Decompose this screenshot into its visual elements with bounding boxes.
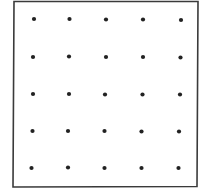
grid-dot-r4-c5 — [177, 129, 181, 133]
grid-dot-r4-c2 — [66, 129, 70, 133]
grid-dot-r1-c4 — [141, 17, 145, 21]
grid-dot-r3-c4 — [140, 92, 144, 96]
grid-dot-r1-c3 — [104, 17, 108, 21]
grid-dot-r1-c1 — [32, 17, 36, 21]
grid-dot-r5-c4 — [139, 166, 143, 170]
grid-dot-r1-c2 — [67, 17, 71, 21]
grid-dot-r5-c2 — [66, 165, 70, 169]
grid-dot-r2-c4 — [141, 55, 145, 59]
grid-dot-r2-c2 — [67, 54, 71, 58]
grid-dot-r4-c3 — [102, 129, 106, 133]
grid-dot-r4-c1 — [30, 129, 34, 133]
grid-dot-r3-c3 — [103, 92, 107, 96]
grid-dot-r5-c1 — [29, 166, 33, 170]
grid-dot-r5-c3 — [102, 166, 106, 170]
grid-dot-r2-c5 — [178, 55, 182, 59]
grid-dot-r3-c5 — [178, 92, 182, 96]
grid-dot-r2-c3 — [104, 55, 108, 59]
grid-dot-r5-c5 — [176, 166, 180, 170]
grid-dot-r3-c1 — [31, 92, 35, 96]
grid-dot-r2-c1 — [31, 55, 35, 59]
grid-dot-r1-c5 — [179, 18, 183, 22]
dot-grid — [29, 17, 183, 170]
grid-dot-r3-c2 — [67, 92, 71, 96]
dot-grid-diagram — [0, 0, 205, 192]
grid-dot-r4-c4 — [139, 129, 143, 133]
